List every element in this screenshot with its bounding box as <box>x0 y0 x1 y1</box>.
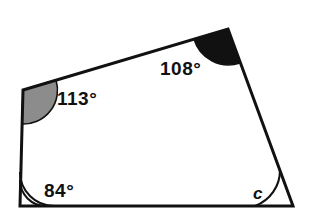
angle-label-bottom-left: 84° <box>44 181 74 200</box>
angle-label-top-left: 113° <box>57 89 97 108</box>
angle-marker-bottom-left-inner-arc <box>20 180 46 206</box>
angle-marker-top-left <box>22 80 58 124</box>
angle-label-bottom-right-unknown: c <box>253 185 262 202</box>
angle-label-top-right: 108° <box>160 59 201 78</box>
figure-canvas: 113° 108° 84° c <box>0 0 310 214</box>
